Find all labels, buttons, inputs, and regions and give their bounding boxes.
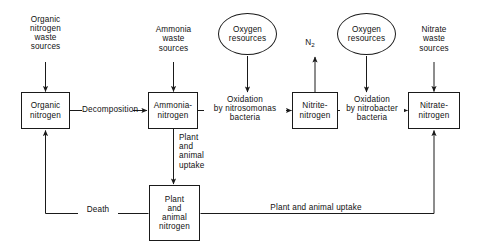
ammonia-waste-sources: Ammonia waste sources [142, 20, 205, 58]
box-line: nitrogen [159, 222, 190, 231]
box-line: Nitrite- [302, 101, 327, 110]
plant-animal-uptake-horizontal-label: Plant and animal uptake [263, 203, 369, 212]
source-line: waste [162, 34, 184, 43]
nitrate-nitrogen-box[interactable]: Nitrate- nitrogen [408, 92, 460, 129]
box-line: nitrogen [300, 111, 331, 120]
death-label: Death [78, 205, 118, 214]
box-line: nitrogen [419, 111, 450, 120]
box-line: nitrogen [158, 111, 189, 120]
edge-label-line: bacteria [204, 113, 286, 122]
nitrogen-gas-text: N2 [298, 38, 322, 47]
box-line: Plant [165, 195, 184, 204]
edge-label-line: animal [179, 151, 219, 160]
organic-nitrogen-waste-sources: Organic nitrogen waste sources [14, 8, 77, 58]
ellipse-line: resources [229, 34, 266, 43]
n-subscript: 2 [311, 41, 315, 48]
plant-animal-nitrogen-box[interactable]: Plant and animal nitrogen [149, 185, 200, 241]
nitrogen-cycle-diagram: Organic nitrogen waste sources Ammonia w… [0, 0, 477, 252]
edge-label-line: Decomposition [82, 105, 133, 114]
nitrate-waste-sources: Nitrate waste sources [403, 20, 465, 58]
edge-label-line: Plant and animal uptake [263, 203, 369, 212]
box-line: Organic [31, 101, 61, 110]
edge-plant-animal-uptake-loop [201, 131, 435, 214]
source-line: Ammonia [156, 25, 192, 34]
oxidation-nitrobacter-label: Oxidation by nitrobacter bacteria [340, 95, 404, 123]
box-line: animal [162, 213, 187, 222]
edge-label-line: by nitrobacter [340, 104, 404, 113]
source-line: sources [419, 44, 449, 53]
source-line: Nitrate [421, 25, 446, 34]
source-line: Organic [31, 15, 61, 24]
edge-label-line: and [179, 142, 219, 151]
edge-label-line: by nitrosomonas [204, 104, 286, 113]
source-line: sources [31, 42, 61, 51]
source-line: waste [34, 33, 56, 42]
oxygen-resources-left: Oxygen resources [218, 13, 277, 55]
ellipse-line: Oxygen [233, 25, 262, 34]
edge-label-line: bacteria [340, 113, 404, 122]
oxidation-nitrosomonas-label: Oxidation by nitrosomonas bacteria [204, 95, 286, 123]
edge-label-line: Death [78, 205, 118, 214]
edge-death-loop [46, 131, 149, 214]
box-line: nitrogen [30, 111, 61, 120]
edge-label-line: Plant [179, 133, 219, 142]
box-line: Nitrate- [420, 101, 448, 110]
ammonia-nitrogen-box[interactable]: Ammonia- nitrogen [148, 92, 198, 129]
nitrite-nitrogen-box[interactable]: Nitrite- nitrogen [292, 92, 338, 129]
organic-nitrogen-box[interactable]: Organic nitrogen [21, 92, 70, 129]
decomposition-label: Decomposition [82, 105, 133, 114]
ellipse-line: resources [348, 34, 385, 43]
edge-label-line: uptake [179, 161, 219, 170]
edge-label-line: Oxidation [340, 95, 404, 104]
box-line: and [167, 204, 181, 213]
plant-animal-uptake-vertical-label: Plant and animal uptake [179, 133, 219, 170]
source-line: sources [159, 44, 189, 53]
nitrogen-gas-label: N2 [298, 38, 322, 47]
edge-label-line: Oxidation [204, 95, 286, 104]
source-line: nitrogen [30, 24, 61, 33]
source-line: waste [423, 34, 445, 43]
box-line: Ammonia- [154, 101, 193, 110]
oxygen-resources-right: Oxygen resources [337, 13, 396, 55]
ellipse-line: Oxygen [352, 25, 381, 34]
